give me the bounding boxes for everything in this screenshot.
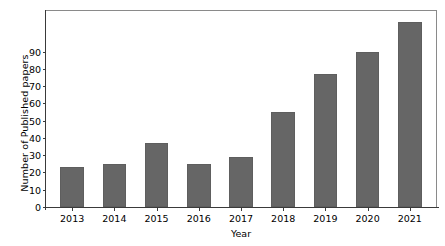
y-tick-label: 40	[29, 132, 41, 143]
x-tick-label: 2013	[60, 213, 84, 224]
x-tick-mark	[241, 207, 242, 211]
x-tick-label: 2014	[102, 213, 126, 224]
x-axis-title: Year	[45, 228, 437, 239]
y-tick-label: 0	[35, 202, 41, 213]
bar-chart-figure: Number of Published papers 0102030405060…	[0, 0, 445, 246]
y-tick-label: 30	[29, 150, 41, 161]
x-tick-mark	[199, 207, 200, 211]
y-tick-label: 70	[29, 81, 41, 92]
x-tick-label: 2015	[144, 213, 168, 224]
bar-2014	[103, 164, 127, 207]
bar-2020	[356, 52, 380, 207]
x-axis-spine	[45, 207, 439, 208]
y-tick-label: 90	[29, 46, 41, 57]
bar-2017	[229, 157, 253, 207]
x-tick-mark	[114, 207, 115, 211]
x-tick-label: 2021	[398, 213, 422, 224]
bar-2018	[271, 112, 295, 207]
y-tick-mark	[43, 52, 47, 53]
y-tick-mark	[43, 172, 47, 173]
x-tick-mark	[368, 207, 369, 211]
bar-series	[46, 11, 436, 207]
x-tick-mark	[283, 207, 284, 211]
y-tick-mark	[43, 121, 47, 122]
y-tick-mark	[43, 207, 47, 208]
x-tick-label: 2017	[229, 213, 253, 224]
y-tick-mark	[43, 138, 47, 139]
bar-2013	[60, 167, 84, 207]
y-tick-mark	[43, 103, 47, 104]
x-tick-mark	[72, 207, 73, 211]
y-tick-label: 80	[29, 63, 41, 74]
y-tick-label: 60	[29, 98, 41, 109]
x-tick-mark	[410, 207, 411, 211]
x-tick-label: 2016	[187, 213, 211, 224]
bar-2016	[187, 164, 211, 207]
x-tick-mark	[157, 207, 158, 211]
y-tick-label: 10	[29, 184, 41, 195]
x-tick-label: 2019	[313, 213, 337, 224]
y-tick-mark	[43, 86, 47, 87]
y-tick-mark	[43, 190, 47, 191]
y-tick-mark	[43, 155, 47, 156]
bar-2019	[314, 74, 338, 207]
bar-2021	[398, 22, 422, 207]
plot-area: 0102030405060708090 20132014201520162017…	[45, 10, 437, 208]
y-tick-label: 50	[29, 115, 41, 126]
x-tick-label: 2020	[356, 213, 380, 224]
x-tick-mark	[325, 207, 326, 211]
y-tick-mark	[43, 69, 47, 70]
bar-2015	[145, 143, 169, 207]
x-tick-label: 2018	[271, 213, 295, 224]
y-tick-label: 20	[29, 167, 41, 178]
